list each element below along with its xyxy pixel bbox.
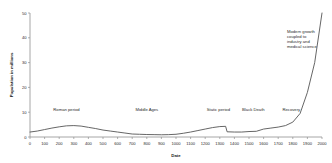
y-tick-label: 40 (22, 35, 27, 40)
x-tick-label: 1100 (186, 141, 196, 146)
x-tick-label: 200 (56, 141, 64, 146)
x-tick-label: 1900 (303, 141, 313, 146)
x-tick-label: 1000 (171, 141, 181, 146)
x-tick-label: 700 (129, 141, 137, 146)
callout-line: medical science (287, 44, 317, 49)
y-axis-title: Population in millions (9, 52, 14, 97)
x-tick-label: 1500 (244, 141, 254, 146)
x-tick-label: 2000 (317, 141, 327, 146)
x-tick-label: 400 (85, 141, 93, 146)
x-tick-label: 1700 (274, 141, 284, 146)
x-tick-label: 500 (100, 141, 108, 146)
x-tick-label: 100 (41, 141, 49, 146)
period-annotation-label: Recovery (282, 107, 301, 112)
period-annotation-label: Middle Ages (135, 107, 158, 112)
y-tick-label: 30 (22, 60, 27, 65)
x-tick-label: 1300 (215, 141, 225, 146)
chart-background (0, 0, 332, 163)
chart-canvas: 01020304050 0100200300400500600700800900… (0, 0, 332, 163)
x-tick-label: 1600 (259, 141, 269, 146)
x-tick-label: 1800 (288, 141, 298, 146)
x-tick-label: 1200 (201, 141, 211, 146)
population-line-chart: 01020304050 0100200300400500600700800900… (0, 0, 332, 163)
x-tick-label: 300 (70, 141, 78, 146)
period-annotation-label: Roman period (53, 107, 80, 112)
x-tick-label: 800 (143, 141, 151, 146)
x-axis-title: Date (171, 153, 181, 158)
y-tick-label: 20 (22, 85, 27, 90)
period-annotation-label: Black Death (242, 107, 265, 112)
y-tick-label: 50 (22, 11, 27, 16)
x-tick-label: 900 (158, 141, 166, 146)
y-tick-label: 10 (22, 110, 27, 115)
period-annotation-label: Static period (207, 107, 231, 112)
x-tick-label: 1400 (230, 141, 240, 146)
x-tick-label: 600 (114, 141, 122, 146)
